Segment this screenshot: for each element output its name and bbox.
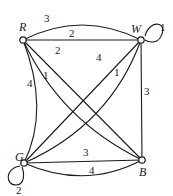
edge-R-W-3 xyxy=(23,25,141,40)
node-label-G: G xyxy=(15,150,24,164)
weight-label: 2 xyxy=(55,44,61,56)
node-label-B: B xyxy=(139,165,147,179)
edge-G-loop-2 xyxy=(8,166,23,185)
weight-label: 2 xyxy=(16,184,22,196)
node-label-R: R xyxy=(18,20,27,34)
weight-label: 4 xyxy=(96,51,102,63)
weight-label: 1 xyxy=(114,66,120,78)
node-W xyxy=(138,37,144,43)
weight-label: 3 xyxy=(44,12,50,24)
node-B xyxy=(139,157,145,163)
weight-label: 3 xyxy=(144,85,150,97)
weight-label: 4 xyxy=(89,164,95,176)
graph-diagram: 3 2 1 2 1 4 4 1 3 3 4 2 R W G B xyxy=(0,0,173,196)
weight-label: 1 xyxy=(43,69,49,81)
weight-label: 4 xyxy=(27,77,33,89)
edge-R-G-4 xyxy=(23,40,37,163)
node-label-W: W xyxy=(131,22,142,36)
weight-label: 1 xyxy=(160,21,166,33)
edge-G-B-3 xyxy=(24,160,142,163)
weight-label: 3 xyxy=(83,146,89,158)
weight-label: 2 xyxy=(69,27,75,39)
node-R xyxy=(20,37,26,43)
edge-W-B-3 xyxy=(141,40,142,160)
